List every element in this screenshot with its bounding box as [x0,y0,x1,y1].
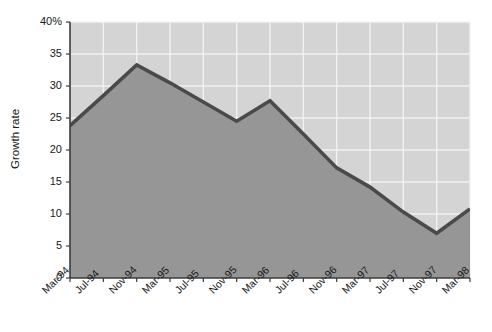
growth-rate-area-chart: Growth rate 0510152025303540% Mar-94Jul-… [0,0,492,332]
y-tick-label: 40% [28,16,62,27]
y-tick-label: 15 [28,176,62,187]
y-tick-label: 25 [28,112,62,123]
y-tick-label: 5 [28,240,62,251]
y-tick-label: 20 [28,144,62,155]
y-tick-label: 10 [28,208,62,219]
y-tick-label: 30 [28,80,62,91]
y-tick-label: 35 [28,48,62,59]
